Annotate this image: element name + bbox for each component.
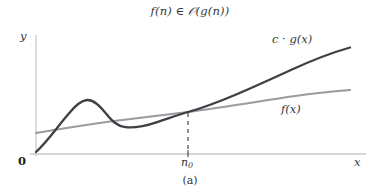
subfigure-caption: (a) [0,175,380,186]
y-axis-label: y [20,31,27,43]
c-g-curve [36,48,350,153]
n0-label-subscript: 0 [188,161,193,170]
f-curve-label: f(x) [281,104,301,116]
origin-label: 0 [18,156,26,168]
n0-threshold-label: n0 [181,157,193,170]
c-g-curve-label: c · g(x) [272,34,312,46]
x-axis-label: x [354,157,361,169]
big-o-figure: f(n) ∈ 𝒪(g(n)) y x 0 n0 c · g(x) f(x) (a… [0,0,380,195]
figure-title: f(n) ∈ 𝒪(g(n)) [0,6,380,18]
